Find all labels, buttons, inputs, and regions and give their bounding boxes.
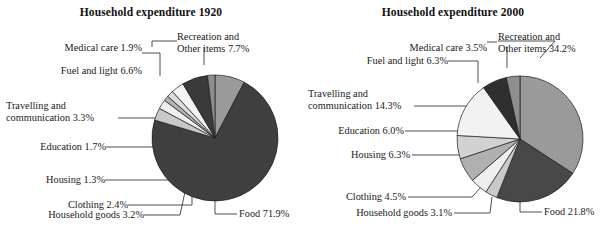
pie-slices-2000 xyxy=(457,76,583,202)
label-medical-care-2000: Medical care 3.5% xyxy=(354,42,487,54)
label-fuel-and-light-1920: Fuel and light 6.6% xyxy=(8,65,142,77)
pie-chart-1920: Recreation and Other items 7.7% Medical … xyxy=(0,0,302,244)
label-clothing-2000: Clothing 4.5% xyxy=(304,191,406,203)
label-recreation-other-items-1920: Recreation and Other items 7.7% xyxy=(177,31,249,54)
label-fuel-and-light-2000: Fuel and light 6.3% xyxy=(314,55,448,67)
label-line-2: Other items 7.7% xyxy=(177,43,249,55)
label-medical-care-1920: Medical care 1.9% xyxy=(10,42,142,54)
label-food-1920: Food 71.9% xyxy=(239,208,289,220)
label-travelling-communication-2000: Travelling and communication 14.3% xyxy=(308,88,401,111)
pie-chart-2000: Recreation and Other items 34.2% Medical… xyxy=(302,0,604,244)
label-household-goods-2000: Household goods 3.1% xyxy=(304,207,452,219)
pie-slices-1920 xyxy=(152,75,278,201)
label-line-1: Recreation and xyxy=(498,31,576,43)
chart-panel-1920: Household expenditure 1920 xyxy=(0,0,302,244)
label-housing-2000: Housing 6.3% xyxy=(304,149,410,161)
household-expenditure-figure: Household expenditure 1920 xyxy=(0,0,604,244)
label-line-1: Recreation and xyxy=(177,31,249,43)
label-education-2000: Education 6.0% xyxy=(304,125,404,137)
label-line-2: Other items 34.2% xyxy=(498,43,576,55)
label-education-1920: Education 1.7% xyxy=(2,141,106,153)
label-travelling-communication-1920: Travelling and communication 3.3% xyxy=(6,100,94,123)
chart-panel-2000: Household expenditure 2000 xyxy=(302,0,604,244)
label-household-goods-1920: Household goods 3.2% xyxy=(2,209,144,221)
label-recreation-other-items-2000: Recreation and Other items 34.2% xyxy=(498,31,576,54)
label-food-2000: Food 21.8% xyxy=(544,206,594,218)
label-housing-1920: Housing 1.3% xyxy=(2,174,105,186)
